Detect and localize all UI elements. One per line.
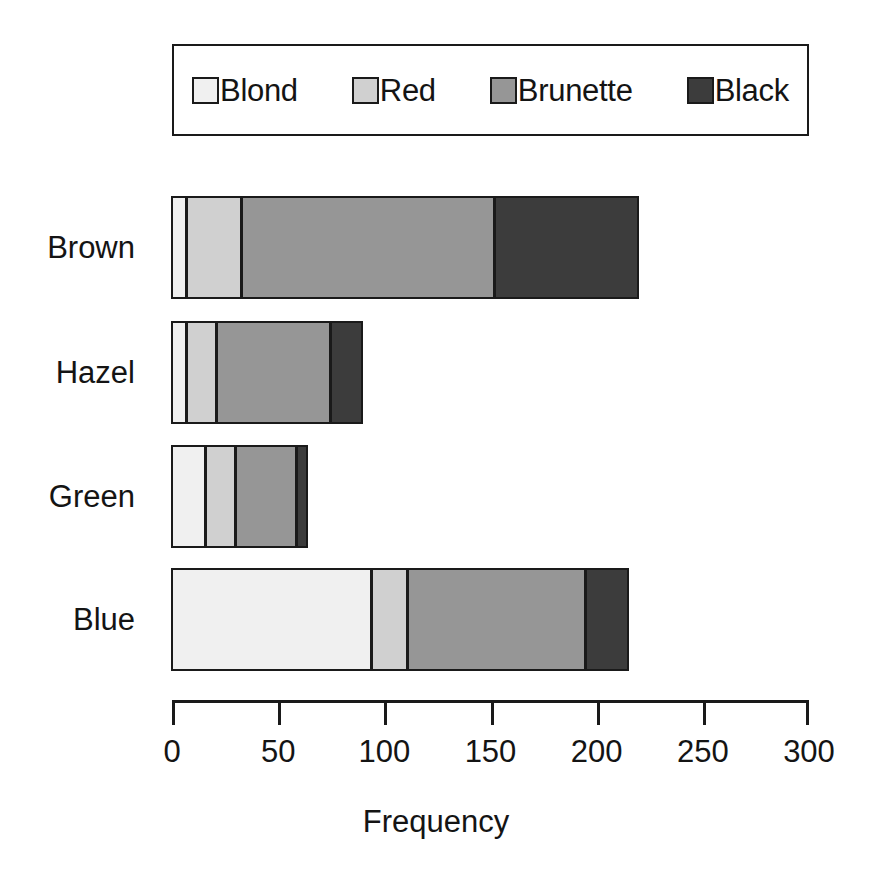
x-axis-tick-label: 100	[358, 736, 410, 767]
x-axis-tick-label: 200	[571, 736, 623, 767]
x-axis-title: Frequency	[0, 806, 872, 837]
x-axis-tick-label: 300	[783, 736, 835, 767]
x-axis-tick	[491, 700, 494, 725]
bar-segment-blue-black[interactable]	[585, 568, 628, 671]
bar-row: Brown	[0, 196, 872, 299]
category-label-brown: Brown	[47, 232, 135, 263]
bar-segment-green-black[interactable]	[296, 445, 308, 548]
x-axis-tick	[597, 700, 600, 725]
category-label-hazel: Hazel	[56, 357, 135, 388]
x-axis-tick-label: 0	[163, 736, 180, 767]
category-label-green: Green	[49, 481, 135, 512]
bar-segment-green-blond[interactable]	[171, 445, 206, 548]
bar-segment-hazel-brunette[interactable]	[216, 321, 332, 424]
x-axis-tick	[806, 700, 809, 725]
bar-segment-hazel-red[interactable]	[186, 321, 217, 424]
x-axis-tick	[703, 700, 706, 725]
bar-row: Blue	[0, 568, 872, 671]
bar-track-hazel	[172, 321, 363, 424]
plot-area: BrownHazelGreenBlue	[0, 0, 872, 887]
bar-segment-green-brunette[interactable]	[235, 445, 298, 548]
bar-segment-brown-red[interactable]	[186, 196, 242, 299]
x-axis: 050100150200250300	[172, 700, 809, 701]
category-label-blue: Blue	[73, 604, 135, 635]
bar-segment-blue-red[interactable]	[371, 568, 408, 671]
x-axis-tick	[172, 700, 175, 725]
x-axis-tick-label: 50	[261, 736, 295, 767]
x-axis-tick-label: 150	[465, 736, 517, 767]
bar-segment-hazel-blond[interactable]	[171, 321, 187, 424]
bar-segment-brown-black[interactable]	[494, 196, 639, 299]
bar-segment-green-red[interactable]	[205, 445, 236, 548]
bar-segment-brown-brunette[interactable]	[241, 196, 495, 299]
bar-track-blue	[172, 568, 629, 671]
bar-segment-blue-brunette[interactable]	[407, 568, 586, 671]
bar-segment-blue-blond[interactable]	[171, 568, 372, 671]
bar-segment-brown-blond[interactable]	[171, 196, 187, 299]
x-axis-tick	[278, 700, 281, 725]
bar-track-green	[172, 445, 308, 548]
x-axis-tick-label: 250	[677, 736, 729, 767]
bar-track-brown	[172, 196, 639, 299]
bar-segment-hazel-black[interactable]	[330, 321, 363, 424]
x-axis-tick	[384, 700, 387, 725]
bar-row: Hazel	[0, 321, 872, 424]
bar-row: Green	[0, 445, 872, 548]
stacked-bar-chart: Blond Red Brunette Black BrownHazelGreen…	[0, 0, 872, 887]
